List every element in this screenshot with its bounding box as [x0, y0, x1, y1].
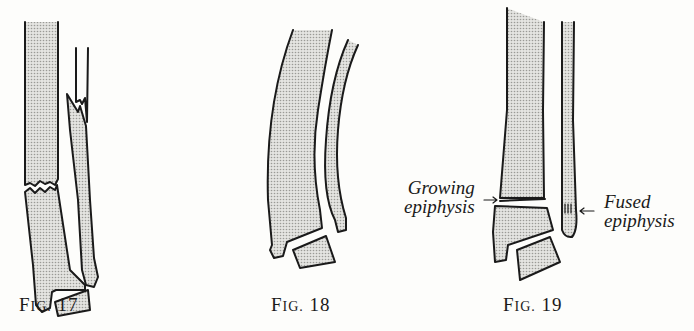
fig19-talus [517, 237, 560, 280]
growing-epiphysis-label: Growing epiphysis [404, 178, 475, 216]
fig18-talus [293, 236, 335, 268]
caption-number: 18 [310, 294, 331, 315]
fig18-drawing [268, 30, 358, 268]
growing-label-line1: Growing [404, 178, 475, 197]
caption-smallcaps: IG. [283, 299, 304, 314]
caption-smallcaps: IG. [31, 299, 52, 314]
caption-smallcaps: IG. [515, 299, 536, 314]
caption-prefix: F [271, 294, 283, 315]
fused-arrow-icon [580, 208, 594, 214]
fig17-tibia-lower [25, 185, 85, 312]
fig17-caption: FIG. 17 [19, 294, 79, 316]
fig17-fibula-lower [67, 94, 98, 287]
fig18-caption: FIG. 18 [271, 294, 331, 316]
fig17-drawing [25, 22, 98, 316]
fused-label-line1: Fused [604, 192, 675, 211]
caption-number: 19 [542, 294, 563, 315]
fig19-drawing [484, 8, 594, 280]
growing-label-line2: epiphysis [404, 197, 475, 216]
caption-number: 17 [58, 294, 79, 315]
fused-label-line2: epiphysis [604, 211, 675, 230]
caption-prefix: F [19, 294, 31, 315]
fig17-tibia-upper [25, 22, 58, 186]
fused-epiphysis-label: Fused epiphysis [604, 192, 675, 230]
fig19-fibula [562, 22, 577, 237]
caption-prefix: F [503, 294, 515, 315]
fig19-caption: FIG. 19 [503, 294, 563, 316]
fig19-tibia-shaft [500, 8, 544, 198]
fig18-fibula [325, 40, 358, 232]
fig19-growth-plate-line [500, 199, 545, 201]
illustration-canvas [0, 0, 694, 331]
fig18-tibia [268, 30, 332, 258]
growing-arrow-icon [484, 197, 497, 203]
